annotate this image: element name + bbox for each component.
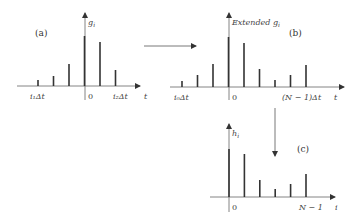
- stems: [38, 36, 116, 86]
- tick-right: (N − 1)Δt: [282, 93, 322, 102]
- stems: [229, 149, 306, 197]
- tick-left: i₀Δt: [174, 93, 190, 102]
- x-axis-label: i: [335, 203, 338, 212]
- panel-label: (b): [289, 28, 302, 38]
- panel-c: (c) hi 0 N − 1 i: [210, 124, 338, 212]
- panel-label: (a): [35, 28, 47, 38]
- x-axis-label: t: [334, 93, 338, 102]
- x-axis-label: t: [144, 92, 148, 101]
- stems: [182, 37, 306, 87]
- tick-zero: 0: [232, 93, 237, 102]
- tick-zero: 0: [232, 203, 237, 212]
- panel-label: (c): [297, 144, 309, 154]
- panel-a: (a) gi i₁Δt 0 i₂Δt t: [17, 13, 148, 101]
- panel-b: (b) Extended gi i₀Δt 0 (N − 1)Δt t: [170, 13, 344, 102]
- y-axis-label: Extended gi: [231, 18, 280, 28]
- tick-zero: 0: [88, 92, 93, 101]
- tick-left: i₁Δt: [30, 92, 46, 101]
- tick-right: N − 1: [298, 203, 323, 212]
- y-axis-label: hi: [232, 129, 239, 139]
- diagram-canvas: (a) gi i₁Δt 0 i₂Δt t (b) Extended gi i₀Δ…: [0, 0, 357, 222]
- y-axis-label: gi: [88, 18, 95, 28]
- tick-right: i₂Δt: [113, 92, 129, 101]
